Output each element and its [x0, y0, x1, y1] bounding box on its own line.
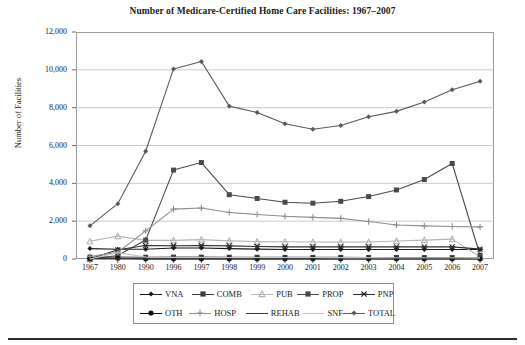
cross-marker-icon	[353, 289, 375, 299]
legend-row-1: VNACOMBPUBPROPPNP	[134, 285, 395, 303]
none-marker-icon	[246, 308, 268, 318]
legend-label: SNF	[327, 308, 343, 318]
legend-item-total[interactable]: TOTAL	[343, 308, 395, 318]
legend-item-vna[interactable]: VNA	[134, 289, 192, 299]
chart-figure: Number of Medicare-Certified Home Care F…	[0, 0, 525, 345]
legend-label: PNP	[378, 289, 394, 299]
plot-area	[76, 32, 494, 259]
chart-legend: VNACOMBPUBPROPPNP OTHHOSPREHABSNFTOTAL	[133, 283, 394, 324]
legend-item-snf[interactable]: SNF	[302, 308, 343, 318]
page-bottom-rule	[8, 338, 517, 340]
legend-item-hosp[interactable]: HOSP	[189, 308, 246, 318]
legend-row-2: OTHHOSPREHABSNFTOTAL	[134, 304, 395, 322]
legend-label: PROP	[322, 289, 343, 299]
y-axis-tick-label: 4,000	[21, 178, 67, 187]
square-marker-icon	[297, 289, 319, 299]
legend-item-pub[interactable]: PUB	[251, 289, 297, 299]
y-axis-tick-label: 2,000	[21, 216, 67, 225]
diamond-marker-icon	[343, 308, 365, 318]
legend-item-pnp[interactable]: PNP	[353, 289, 395, 299]
legend-label: TOTAL	[368, 308, 395, 318]
legend-label: COMB	[217, 289, 242, 299]
x-axis-tick-label: 2007	[460, 263, 500, 272]
circle-marker-icon	[140, 308, 162, 318]
legend-item-oth[interactable]: OTH	[134, 308, 189, 318]
diamond-marker-icon	[140, 289, 162, 299]
legend-item-prop[interactable]: PROP	[297, 289, 353, 299]
legend-label: VNA	[165, 289, 183, 299]
y-axis-tick-label: 12,000	[21, 27, 67, 36]
legend-item-rehab[interactable]: REHAB	[246, 308, 303, 318]
y-axis-tick-label: 6,000	[21, 141, 67, 150]
legend-label: OTH	[165, 308, 182, 318]
legend-label: REHAB	[271, 308, 300, 318]
legend-item-comb[interactable]: COMB	[192, 289, 251, 299]
plus-marker-icon	[189, 308, 211, 318]
triangle-marker-icon	[251, 289, 273, 299]
chart-title: Number of Medicare-Certified Home Care F…	[0, 6, 525, 16]
y-axis-tick-label: 0	[21, 254, 67, 263]
legend-label: PUB	[276, 289, 293, 299]
square-marker-icon	[192, 289, 214, 299]
y-axis-tick-label: 10,000	[21, 65, 67, 74]
legend-label: HOSP	[214, 308, 236, 318]
y-axis-tick-label: 8,000	[21, 103, 67, 112]
none-marker-icon	[302, 308, 324, 318]
